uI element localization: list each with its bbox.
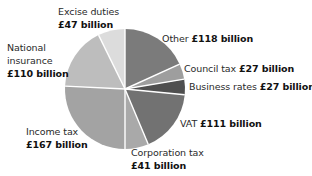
label-name: Income tax [26,125,88,138]
label-name-line1: National [7,41,69,54]
label-business-rates: Business rates £27 billion [189,80,312,93]
label-value: £41 billion [131,159,204,172]
label-name: Other [162,33,188,44]
label-corporation-tax: Corporation tax £41 billion [131,146,204,172]
label-name: Excise duties [58,5,119,18]
label-value: £47 billion [58,18,119,31]
label-name: Corporation tax [131,146,204,159]
label-name: VAT [180,118,197,129]
label-value: £27 billion [260,81,312,92]
label-vat: VAT £111 billion [180,117,262,130]
label-other: Other £118 billion [162,32,253,45]
label-value: £118 billion [191,33,253,44]
label-national-insurance: National insurance £110 billion [7,41,69,80]
label-value: £110 billion [7,67,69,80]
label-value: £27 billion [239,63,294,74]
label-value: £167 billion [26,138,88,151]
label-income-tax: Income tax £167 billion [26,125,88,151]
label-council-tax: Council tax £27 billion [184,62,294,75]
label-name-line2: insurance [7,54,69,67]
label-name: Council tax [184,63,236,74]
label-value: £111 billion [200,118,262,129]
label-excise-duties: Excise duties £47 billion [58,5,119,31]
label-name: Business rates [189,81,257,92]
